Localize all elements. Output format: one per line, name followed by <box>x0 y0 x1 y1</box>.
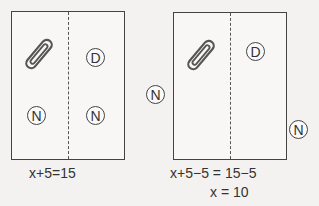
left-envelope-box <box>11 11 125 160</box>
nickel-coin-removed-right: N <box>289 120 308 139</box>
paperclip-icon <box>186 37 216 73</box>
paperclip-icon <box>24 36 54 72</box>
equation-right-line1: x+5−5 = 15−5 <box>170 165 256 181</box>
nickel-coin: N <box>86 106 105 125</box>
dime-coin: D <box>86 48 105 67</box>
nickel-coin: N <box>27 106 46 125</box>
right-envelope-box <box>173 12 287 160</box>
nickel-coin-removed-left: N <box>146 85 165 104</box>
equation-right-line2: x = 10 <box>210 184 249 200</box>
dashed-divider <box>230 13 231 159</box>
dime-coin: D <box>246 42 265 61</box>
equation-left: x+5=15 <box>29 165 76 181</box>
dashed-divider <box>68 12 69 159</box>
